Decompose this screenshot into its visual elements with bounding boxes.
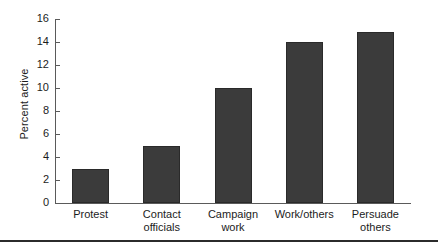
x-axis-line (55, 203, 411, 204)
y-tick-mark (55, 203, 60, 204)
y-tick-label-text: 2 (22, 174, 49, 185)
bar (143, 146, 180, 204)
y-tick-label: 6 (22, 128, 49, 139)
bottom-divider-rule (0, 240, 438, 242)
x-tick-label: Persuadeothers (329, 208, 421, 234)
y-tick-label-text: 10 (22, 82, 49, 93)
y-tick-label: 12 (22, 59, 49, 70)
y-tick-label: 0 (22, 197, 49, 208)
bar (215, 88, 252, 203)
x-tick-label-line: work (187, 221, 279, 234)
bar (357, 32, 394, 203)
x-tick-label-line: others (329, 221, 421, 234)
x-tick-label-line: Persuade (329, 208, 421, 221)
y-tick-label: 16 (22, 13, 49, 24)
y-tick-label: 2 (22, 174, 49, 185)
y-tick-label-text: 6 (22, 128, 49, 139)
plot-area (55, 19, 411, 203)
y-tick-label-text: 4 (22, 151, 49, 162)
y-tick-label: 10 (22, 82, 49, 93)
y-tick-label: 8 (22, 105, 49, 116)
bar-chart-figure: Percent active 0246810121416 ProtestCont… (0, 0, 438, 248)
bar (286, 42, 323, 203)
y-tick-label: 4 (22, 151, 49, 162)
y-tick-label-text: 0 (22, 197, 49, 208)
bar (72, 169, 109, 204)
y-tick-label-text: 14 (22, 36, 49, 47)
y-tick-label-text: 16 (22, 13, 49, 24)
y-tick-label-text: 8 (22, 105, 49, 116)
y-tick-label-text: 12 (22, 59, 49, 70)
y-tick-label: 14 (22, 36, 49, 47)
